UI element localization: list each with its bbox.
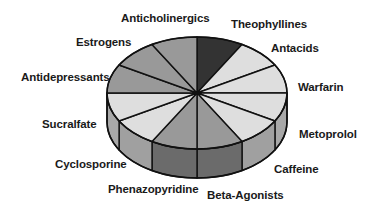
label-sucralfate: Sucralfate — [42, 118, 97, 130]
label-anticholinergics: Anticholinergics — [121, 12, 210, 24]
label-estrogens: Estrogens — [76, 36, 131, 48]
label-cyclosporine: Cyclosporine — [55, 158, 127, 170]
pie-center — [195, 91, 199, 95]
label-antacids: Antacids — [271, 42, 319, 54]
label-caffeine: Caffeine — [274, 163, 319, 175]
label-beta-agonists: Beta-Agonists — [207, 189, 284, 201]
label-phenazopyridine: Phenazopyridine — [108, 183, 199, 195]
pie-slices — [107, 37, 287, 149]
label-theophyllines: Theophyllines — [231, 18, 307, 30]
pie-chart: TheophyllinesAntacidsWarfarinMetoprololC… — [0, 0, 368, 215]
label-warfarin: Warfarin — [298, 81, 343, 93]
label-metoprolol: Metoprolol — [299, 128, 357, 140]
label-antidepressants: Antidepressants — [21, 71, 110, 83]
